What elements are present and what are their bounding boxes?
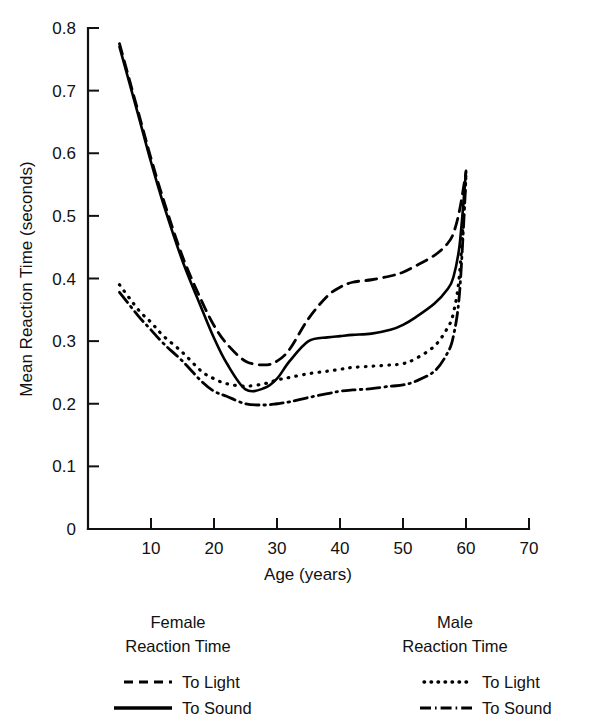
- series-line-female-to-light: [120, 44, 467, 365]
- y-tick-label: 0: [67, 520, 76, 539]
- reaction-time-figure: 00.10.20.30.40.50.60.70.8 10203040506070…: [0, 0, 589, 726]
- legend-male-light-label: To Light: [482, 673, 540, 691]
- legend-male-title-line2: Reaction Time: [402, 637, 507, 655]
- y-axis-ticks: 00.10.20.30.40.50.60.70.8: [52, 19, 99, 539]
- x-axis-title: Age (years): [264, 565, 352, 584]
- axes-group: [88, 28, 529, 529]
- y-tick-label: 0.4: [52, 270, 76, 289]
- x-tick-label: 50: [394, 539, 413, 558]
- series-line-female-to-sound: [120, 47, 467, 391]
- x-tick-label: 10: [142, 539, 161, 558]
- y-tick-label: 0.1: [52, 457, 76, 476]
- legend-female-title-line2: Reaction Time: [125, 637, 230, 655]
- legend-male: Male Reaction Time To Light To Sound: [402, 613, 551, 717]
- x-tick-label: 20: [205, 539, 224, 558]
- y-tick-label: 0.8: [52, 19, 76, 38]
- x-tick-label: 40: [331, 539, 350, 558]
- data-series-group: [120, 44, 467, 405]
- series-line-male-to-light: [120, 173, 467, 386]
- y-tick-label: 0.2: [52, 395, 76, 414]
- legend-male-title-line1: Male: [437, 613, 473, 631]
- legend-female-title-line1: Female: [150, 613, 205, 631]
- legend-female-sound-label: To Sound: [182, 699, 252, 717]
- y-axis-title: Mean Reaction Time (seconds): [17, 161, 36, 396]
- y-tick-label: 0.6: [52, 144, 76, 163]
- chart-canvas: 00.10.20.30.40.50.60.70.8 10203040506070…: [0, 0, 589, 726]
- series-line-male-to-sound: [120, 178, 467, 405]
- x-axis-ticks: 10203040506070: [142, 518, 539, 558]
- legend-female-light-label: To Light: [182, 673, 240, 691]
- x-tick-label: 70: [520, 539, 539, 558]
- y-tick-label: 0.5: [52, 207, 76, 226]
- y-tick-label: 0.7: [52, 82, 76, 101]
- y-tick-label: 0.3: [52, 332, 76, 351]
- legend-female: Female Reaction Time To Light To Sound: [114, 613, 252, 717]
- x-tick-label: 60: [457, 539, 476, 558]
- x-tick-label: 30: [268, 539, 287, 558]
- legend-male-sound-label: To Sound: [482, 699, 552, 717]
